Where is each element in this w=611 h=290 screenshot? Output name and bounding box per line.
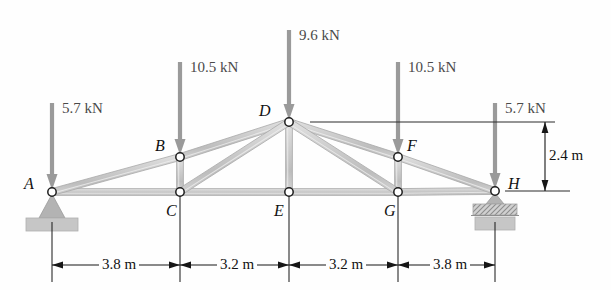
joint-A (48, 188, 56, 196)
truss-member-CE (180, 189, 289, 196)
joint-label-A: A (24, 176, 34, 192)
load-arrow-B (175, 62, 186, 155)
member-highlight (288, 123, 397, 193)
load-arrow-F (393, 62, 404, 155)
load-label-D: 9.6 kN (299, 28, 340, 43)
load-label-A: 5.7 kN (62, 101, 103, 116)
joint-B (176, 153, 184, 161)
joint-H (491, 187, 499, 195)
dimension-label-h-0: 3.8 m (99, 257, 139, 272)
load-label-B: 10.5 kN (190, 60, 238, 75)
joint-D (285, 118, 293, 126)
dimension-label-h-3: 3.8 m (430, 257, 470, 272)
dimension-vertical-0 (542, 122, 549, 191)
dimension-label-v-0: 2.4 m (549, 148, 583, 163)
member-highlight (181, 123, 290, 193)
load-label-H: 5.7 kN (505, 101, 546, 116)
truss-canvas (0, 0, 611, 290)
joint-E (285, 188, 293, 196)
joint-label-F: F (407, 138, 417, 154)
joint-F (394, 153, 402, 161)
member-highlight (398, 158, 495, 192)
dimension-label-h-1: 3.2 m (217, 257, 257, 272)
load-arrow-D (284, 30, 295, 120)
truss-members (51, 119, 496, 196)
truss-member-EG (289, 189, 398, 196)
joint-label-E: E (274, 203, 284, 219)
load-arrow-A (47, 103, 58, 190)
dimension-label-h-2: 3.2 m (326, 257, 366, 272)
truss-member-DE (286, 122, 293, 192)
load-arrow-H (490, 103, 501, 189)
joint-label-C: C (166, 203, 177, 219)
joint-label-H: H (508, 176, 520, 192)
joint-label-B: B (155, 138, 165, 154)
load-label-F: 10.5 kN (408, 60, 456, 75)
joint-label-G: G (384, 203, 396, 219)
joint-C (176, 188, 184, 196)
joint-G (394, 188, 402, 196)
joint-label-D: D (259, 103, 271, 119)
member-highlight (52, 158, 180, 193)
truss-diagram-figure: ABCDEFGH5.7 kN10.5 kN9.6 kN10.5 kN5.7 kN… (0, 0, 611, 290)
truss-supports (26, 193, 519, 231)
